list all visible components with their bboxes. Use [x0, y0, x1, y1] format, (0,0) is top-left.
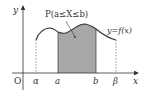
shaded-probability-area: [58, 24, 96, 73]
x-axis-label: x: [133, 76, 138, 86]
tick-b: b: [93, 76, 98, 86]
tick-alpha: α: [33, 76, 39, 86]
y-axis-label: y: [12, 5, 19, 15]
origin-label: O: [14, 76, 21, 86]
curve-label: y=f(x): [106, 26, 132, 35]
pdf-diagram: y O x α a b β P(a≤X≤b) y=f(x): [0, 0, 151, 98]
leader-dot: [74, 36, 76, 38]
tick-a: a: [55, 76, 60, 86]
probability-label: P(a≤X≤b): [45, 9, 88, 19]
tick-beta: β: [112, 76, 118, 86]
